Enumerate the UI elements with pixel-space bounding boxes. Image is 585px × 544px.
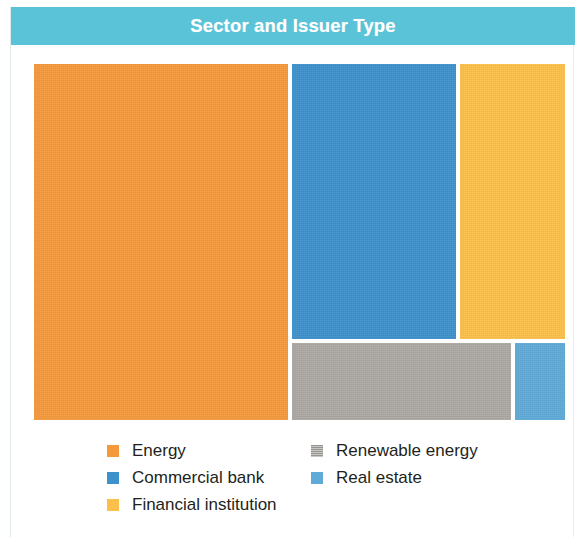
legend-item[interactable]: Energy [107,437,277,464]
legend-column-left: EnergyCommercial bankFinancial instituti… [107,437,277,518]
treemap-tile[interactable] [34,64,288,420]
treemap-tile[interactable] [460,64,565,339]
legend-swatch-icon [311,472,323,484]
legend-swatch-icon [107,499,119,511]
legend-swatch-icon [107,472,119,484]
chart-legend: EnergyCommercial bankFinancial instituti… [11,437,575,532]
treemap-tile[interactable] [292,343,511,420]
page-title: Sector and Issuer Type [190,15,396,37]
legend-item-label: Financial institution [132,496,277,513]
legend-item-label: Energy [132,442,186,459]
legend-item-label: Real estate [336,469,422,486]
chart-title-bar: Sector and Issuer Type [11,7,575,45]
legend-item[interactable]: Renewable energy [311,437,478,464]
treemap-plot-area [11,45,575,420]
treemap-tile[interactable] [515,343,565,420]
legend-column-right: Renewable energyReal estate [311,437,478,491]
legend-swatch-icon [311,445,323,457]
legend-swatch-icon [107,445,119,457]
treemap-tile[interactable] [292,64,456,339]
legend-item-label: Commercial bank [132,469,264,486]
chart-card: Sector and Issuer Type EnergyCommercial … [10,7,574,537]
legend-item[interactable]: Commercial bank [107,464,277,491]
legend-item[interactable]: Real estate [311,464,478,491]
legend-item[interactable]: Financial institution [107,491,277,518]
legend-item-label: Renewable energy [336,442,478,459]
